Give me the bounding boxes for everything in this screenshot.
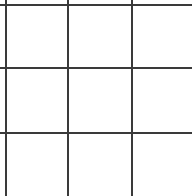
grid-cell-r2-c2[interactable] (133, 134, 192, 195)
grid-cell-r0-c0[interactable] (7, 6, 67, 67)
grid-cell-r2-c1[interactable] (69, 134, 129, 195)
grid-cell-r1-c0[interactable] (7, 69, 67, 130)
grid-cell-r1-c1[interactable] (69, 69, 129, 130)
grid-cell-r1-c2[interactable] (133, 69, 192, 130)
grid-canvas (0, 0, 192, 196)
grid-cell-r0-c2[interactable] (133, 6, 192, 67)
grid-cell-r0-c1[interactable] (69, 6, 129, 67)
grid-cells-layer (0, 0, 192, 196)
grid-cell-r2-c0[interactable] (7, 134, 67, 195)
